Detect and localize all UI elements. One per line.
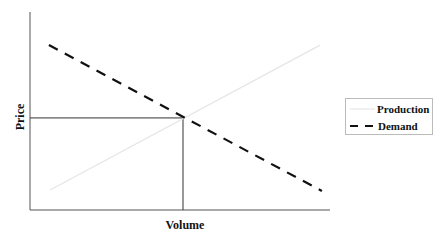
- legend-label-demand: Demand: [378, 120, 418, 132]
- legend-label-production: Production: [377, 103, 429, 115]
- y-axis-label: Price: [13, 103, 27, 130]
- x-axis-label: Volume: [166, 218, 206, 232]
- supply-demand-chart: Volume Price Production Demand: [0, 0, 445, 236]
- legend: Production Demand: [346, 99, 433, 135]
